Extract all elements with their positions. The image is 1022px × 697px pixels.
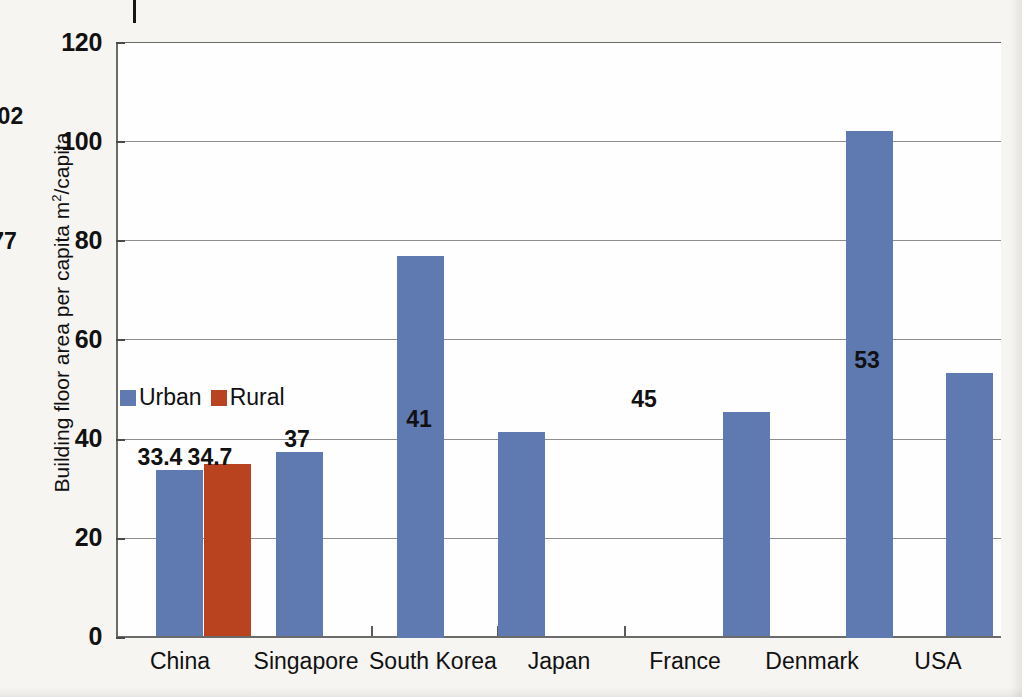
bar-value-japan: 45: [604, 386, 684, 413]
y-tick-label-0: 0: [44, 622, 102, 651]
bar-denmark-urban[interactable]: [397, 256, 444, 638]
y-tick-label-60: 60: [44, 325, 102, 354]
bar-value-france: 53: [827, 347, 907, 374]
legend-label-urban: Urban: [139, 386, 202, 409]
x-axis-label-china: China: [117, 648, 243, 675]
y-tick-label-80: 80: [44, 226, 102, 255]
page-top-rule-artifact: [133, 0, 136, 23]
legend: Urban Rural: [120, 386, 285, 409]
y-tick-label-40: 40: [44, 424, 102, 453]
chart-page: Building floor area per capita m2/capita…: [0, 0, 1022, 697]
bar-usa-urban[interactable]: [846, 131, 893, 638]
legend-label-rural: Rural: [230, 386, 285, 409]
x-axis-label-japan: Japan: [496, 648, 622, 675]
bar-value-china-rural: 34.7: [170, 444, 250, 471]
bar-value-denmark: 77: [0, 228, 44, 255]
plot-area-overlay: [116, 42, 1001, 638]
y-tick-label-120: 120: [44, 28, 102, 57]
legend-entry-rural[interactable]: Rural: [211, 386, 285, 409]
scan-edge-bottom: [0, 687, 1022, 697]
bar-value-usa: 102: [0, 103, 44, 130]
x-axis-label-france: France: [622, 648, 748, 675]
y-tick-label-100: 100: [44, 127, 102, 156]
x-axis-label-denmark: Denmark: [749, 648, 875, 675]
x-axis-label-singapore: Singapore: [243, 648, 369, 675]
bar-value-singapore: 37: [257, 426, 337, 453]
scan-edge-right: [1010, 0, 1022, 697]
y-tick-label-20: 20: [44, 523, 102, 552]
bar-value-south-korea: 41: [379, 406, 459, 433]
y-axis-title-exponent: 2: [49, 194, 64, 201]
legend-entry-urban[interactable]: Urban: [120, 386, 202, 409]
legend-swatch-urban-icon: [120, 390, 136, 406]
x-axis-label-usa: USA: [875, 648, 1001, 675]
x-axis-label-south-korea: South Korea: [369, 648, 495, 675]
legend-swatch-rural-icon: [211, 390, 227, 406]
page-top-artifact-text: [200, 0, 620, 5]
